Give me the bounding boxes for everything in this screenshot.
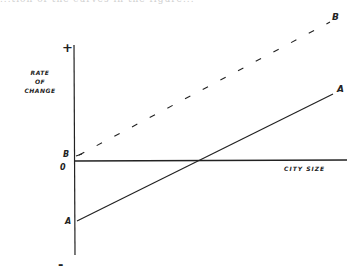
y-label-line-1: RATE [22, 68, 58, 77]
x-axis [74, 160, 347, 161]
y-label-line-2: OF [22, 77, 58, 86]
line-a [77, 94, 333, 221]
y-axis [74, 45, 75, 255]
y-label-line-3: CHANGE [22, 86, 58, 95]
x-axis-label: CITY SIZE [284, 165, 325, 172]
line-b-end-label: B [332, 12, 339, 22]
y-axis-label: RATE OF CHANGE [22, 68, 58, 95]
b-start-tick [76, 154, 82, 156]
line-b-start-label: B [63, 150, 69, 159]
line-b [79, 22, 330, 155]
line-a-end-label: A [337, 84, 344, 94]
plus-sign: + [62, 40, 73, 55]
line-a-start-label: A [65, 217, 71, 226]
chart-canvas [0, 0, 355, 277]
minus-sign: - [58, 257, 63, 272]
origin-label: 0 [60, 163, 66, 172]
